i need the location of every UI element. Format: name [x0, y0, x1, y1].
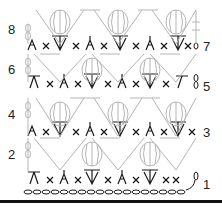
crochet-chart [0, 0, 222, 207]
row-label-5: 5 [203, 80, 210, 93]
row-label-1: 1 [203, 178, 210, 191]
row-label-6: 6 [8, 63, 15, 76]
row-label-2: 2 [8, 148, 15, 161]
row-label-3: 3 [203, 126, 210, 139]
row-label-4: 4 [8, 108, 15, 121]
light-stitch-rows [26, 10, 201, 172]
row-label-8: 8 [8, 23, 15, 36]
bottom-rule [0, 200, 222, 203]
row-label-7: 7 [203, 40, 210, 53]
